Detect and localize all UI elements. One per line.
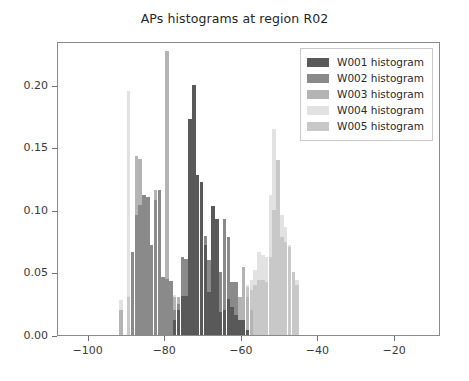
- figure-canvas: APs histograms at region R02 0.000.050.1…: [0, 0, 469, 381]
- histogram-bar: [295, 285, 299, 335]
- legend-item[interactable]: W005 histogram: [307, 119, 426, 134]
- y-tick-mark: [52, 148, 57, 149]
- histogram-bar: [246, 330, 250, 335]
- x-tick-label: −80: [134, 344, 194, 357]
- legend-swatch-icon: [307, 74, 329, 83]
- y-tick-label: 0.00: [8, 329, 48, 342]
- chart-title: APs histograms at region R02: [0, 11, 469, 26]
- legend-item[interactable]: W004 histogram: [307, 103, 426, 118]
- legend-label: W003 histogram: [337, 89, 424, 100]
- legend-item[interactable]: W003 histogram: [307, 87, 426, 102]
- y-tick-mark: [52, 211, 57, 212]
- legend-swatch-icon: [307, 122, 329, 131]
- y-tick-label: 0.20: [8, 79, 48, 92]
- x-tick-mark: [241, 336, 242, 341]
- legend-label: W004 histogram: [337, 105, 424, 116]
- y-tick-mark: [52, 336, 57, 337]
- y-tick-mark: [52, 86, 57, 87]
- legend-swatch-icon: [307, 90, 329, 99]
- y-tick-mark: [52, 273, 57, 274]
- legend-swatch-icon: [307, 58, 329, 67]
- x-tick-label: −20: [364, 344, 424, 357]
- x-tick-label: −100: [58, 344, 118, 357]
- y-tick-label: 0.15: [8, 141, 48, 154]
- legend-swatch-icon: [307, 106, 329, 115]
- x-tick-mark: [164, 336, 165, 341]
- histogram-bar: [119, 310, 123, 335]
- chart-legend: W001 histogramW002 histogramW003 histogr…: [300, 48, 433, 141]
- x-tick-mark: [88, 336, 89, 341]
- histogram-bar: [250, 310, 254, 335]
- legend-item[interactable]: W002 histogram: [307, 71, 426, 86]
- legend-label: W005 histogram: [337, 121, 424, 132]
- x-tick-label: −60: [211, 344, 271, 357]
- x-tick-mark: [394, 336, 395, 341]
- legend-item[interactable]: W001 histogram: [307, 55, 426, 70]
- y-tick-label: 0.10: [8, 204, 48, 217]
- y-tick-label: 0.05: [8, 266, 48, 279]
- legend-label: W002 histogram: [337, 73, 424, 84]
- x-tick-mark: [317, 336, 318, 341]
- x-tick-label: −40: [287, 344, 347, 357]
- legend-label: W001 histogram: [337, 57, 424, 68]
